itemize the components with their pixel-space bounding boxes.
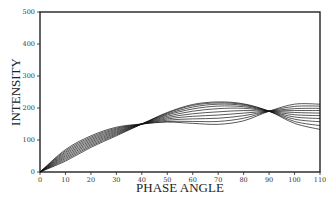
y-tick-label: 200 [23, 104, 35, 112]
x-tick-label: 80 [239, 176, 247, 184]
y-tick-label: 500 [23, 8, 35, 16]
data-curve [40, 106, 320, 172]
x-tick-label: 90 [265, 176, 273, 184]
y-axis-title: INTENSITY [8, 57, 23, 125]
y-axis-ticks: 0100200300400500 [23, 8, 40, 176]
y-tick-label: 400 [23, 40, 35, 48]
x-tick-label: 100 [288, 176, 300, 184]
x-tick-label: 10 [61, 176, 69, 184]
x-axis-title: PHASE ANGLE [136, 180, 224, 195]
y-tick-label: 300 [23, 72, 35, 80]
intensity-vs-phase-chart: 0102030405060708090100110 01002003004005… [0, 0, 336, 204]
data-curve [40, 106, 320, 172]
data-curve [40, 104, 320, 172]
y-tick-label: 0 [31, 168, 35, 176]
y-tick-label: 100 [23, 136, 35, 144]
data-curves [40, 102, 320, 172]
x-tick-label: 0 [38, 176, 42, 184]
x-tick-label: 30 [112, 176, 120, 184]
x-tick-label: 110 [314, 176, 326, 184]
x-tick-label: 20 [87, 176, 95, 184]
